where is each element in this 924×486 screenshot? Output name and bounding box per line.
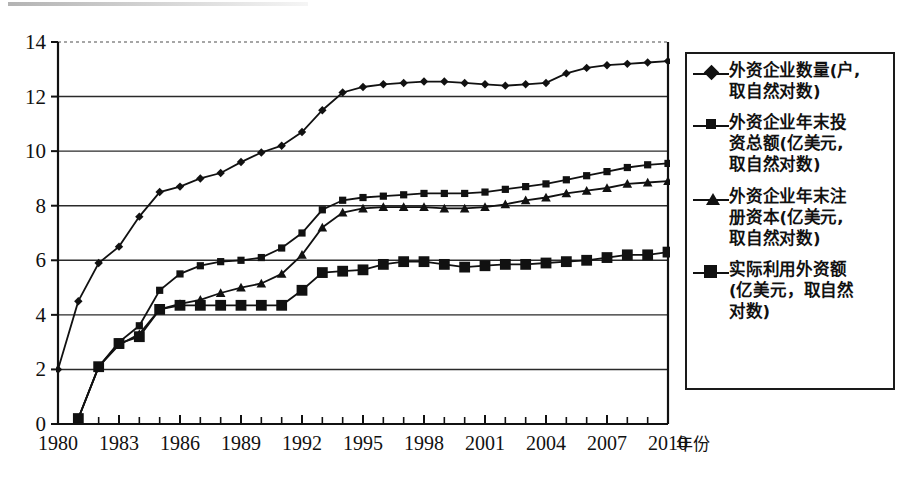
data-point bbox=[663, 247, 674, 258]
data-point bbox=[339, 197, 346, 204]
data-point bbox=[197, 262, 204, 269]
data-point bbox=[337, 266, 348, 277]
big-square-marker-icon bbox=[693, 262, 729, 284]
data-point bbox=[480, 260, 491, 271]
scan-artifact bbox=[8, 2, 308, 6]
data-point bbox=[319, 206, 326, 213]
x-tick-label-2007: 2007 bbox=[587, 432, 627, 454]
x-tick-label-1998: 1998 bbox=[404, 432, 444, 454]
y-tick-label-8: 8 bbox=[36, 194, 47, 218]
x-tick-label-1980: 1980 bbox=[38, 432, 78, 454]
x-tick-label-2004: 2004 bbox=[526, 432, 566, 454]
data-point bbox=[624, 164, 631, 171]
data-point bbox=[114, 338, 125, 349]
data-point bbox=[502, 186, 509, 193]
data-point bbox=[642, 249, 653, 260]
data-point bbox=[622, 249, 633, 260]
legend-entry-0: 外资企业数量(户,取自然对数) bbox=[693, 60, 889, 102]
series-markers-3 bbox=[73, 247, 673, 424]
data-point bbox=[175, 300, 186, 311]
legend-marker-glyph bbox=[706, 193, 720, 205]
square-marker-icon bbox=[693, 115, 729, 137]
data-point bbox=[603, 168, 610, 175]
y-tick-label-12: 12 bbox=[25, 85, 46, 109]
data-point bbox=[216, 169, 224, 177]
chart-legend: 外资企业数量(户,取自然对数)外资企业年末投资总额(亿美元,取自然对数)外资企业… bbox=[685, 52, 895, 390]
data-point bbox=[297, 285, 308, 296]
data-point bbox=[236, 300, 247, 311]
data-point bbox=[419, 256, 430, 267]
x-tick-label-1992: 1992 bbox=[282, 432, 322, 454]
legend-entry-2: 外资企业年末注册资本(亿美元,取自然对数) bbox=[693, 186, 889, 249]
data-point bbox=[664, 160, 671, 167]
y-tick-label-2: 2 bbox=[36, 357, 47, 381]
data-point bbox=[501, 81, 509, 89]
data-point bbox=[581, 255, 592, 266]
data-point bbox=[623, 60, 631, 68]
series-line-2 bbox=[78, 181, 668, 418]
data-point bbox=[257, 148, 265, 156]
x-tick-label-1995: 1995 bbox=[343, 432, 383, 454]
data-point bbox=[156, 287, 163, 294]
data-point bbox=[563, 176, 570, 183]
data-point bbox=[481, 188, 488, 195]
legend-entry-3: 实际利用外资额(亿美元，取自然对数) bbox=[693, 259, 889, 322]
data-point bbox=[542, 79, 550, 87]
data-point bbox=[93, 361, 104, 372]
data-point bbox=[441, 190, 448, 197]
data-point bbox=[500, 259, 511, 270]
data-point bbox=[562, 69, 570, 77]
legend-marker-glyph bbox=[704, 265, 717, 278]
data-point bbox=[215, 300, 226, 311]
data-point bbox=[278, 244, 285, 251]
data-point bbox=[237, 257, 244, 264]
data-point bbox=[258, 254, 265, 261]
series-line-1 bbox=[78, 163, 668, 418]
x-tick-label-2001: 2001 bbox=[465, 432, 505, 454]
data-point bbox=[541, 258, 552, 269]
diamond-marker-icon bbox=[693, 63, 729, 85]
data-point bbox=[298, 229, 305, 236]
data-point bbox=[358, 264, 369, 275]
x-tick-label-1983: 1983 bbox=[99, 432, 139, 454]
chart-figure: 0246810121419801983198619891992199519982… bbox=[0, 0, 924, 486]
data-point bbox=[256, 300, 267, 311]
data-point bbox=[461, 190, 468, 197]
data-point bbox=[136, 322, 143, 329]
data-point bbox=[644, 161, 651, 168]
data-point bbox=[521, 80, 529, 88]
x-tick-label-1986: 1986 bbox=[160, 432, 200, 454]
y-tick-label-6: 6 bbox=[36, 248, 47, 272]
data-point bbox=[237, 158, 245, 166]
series-markers-2 bbox=[74, 176, 673, 422]
legend-entry-label: 外资企业数量(户,取自然对数) bbox=[729, 60, 860, 102]
data-point bbox=[74, 297, 82, 305]
data-point bbox=[134, 331, 145, 342]
data-point bbox=[420, 77, 428, 85]
data-point bbox=[561, 256, 572, 267]
data-point bbox=[440, 77, 448, 85]
data-point bbox=[520, 259, 531, 270]
data-point bbox=[379, 80, 387, 88]
data-point bbox=[400, 191, 407, 198]
legend-entry-label: 外资企业年末注册资本(亿美元,取自然对数) bbox=[729, 186, 847, 249]
data-point bbox=[459, 262, 470, 273]
x-axis-name: 年份 bbox=[676, 434, 710, 454]
legend-marker-glyph bbox=[704, 65, 720, 81]
data-point bbox=[73, 413, 84, 424]
data-point bbox=[378, 259, 389, 270]
legend-entry-label: 外资企业年末投资总额(亿美元,取自然对数) bbox=[729, 112, 847, 175]
data-point bbox=[542, 180, 549, 187]
data-point bbox=[602, 252, 613, 263]
data-point bbox=[317, 267, 328, 278]
data-point bbox=[257, 279, 267, 288]
data-point bbox=[380, 193, 387, 200]
series-line-3 bbox=[78, 252, 668, 418]
data-point bbox=[399, 79, 407, 87]
data-point bbox=[603, 61, 611, 69]
data-point bbox=[460, 79, 468, 87]
data-point bbox=[583, 172, 590, 179]
legend-entry-1: 外资企业年末投资总额(亿美元,取自然对数) bbox=[693, 112, 889, 175]
data-point bbox=[176, 270, 183, 277]
data-point bbox=[176, 182, 184, 190]
